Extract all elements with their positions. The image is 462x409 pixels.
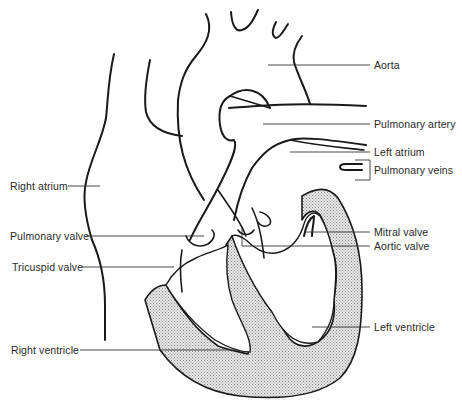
aorta-left-wall	[178, 14, 210, 200]
label-pulmonary-valve: Pulmonary valve	[10, 230, 89, 242]
aortic-branch-1	[231, 10, 258, 30]
label-right-ventricle: Right ventricle	[11, 344, 79, 356]
label-aorta: Aorta	[374, 59, 400, 71]
right-atrium-outline	[84, 54, 114, 340]
superior-vena-cava	[145, 60, 182, 136]
pulmonary-vein-lower	[340, 164, 362, 170]
pulmonary-trunk-left	[190, 96, 235, 240]
pulmonary-vein-upper	[290, 140, 364, 150]
left-atrium-top	[234, 138, 366, 220]
label-left-ventricle: Left ventricle	[374, 321, 435, 333]
label-right-atrium: Right atrium	[10, 180, 68, 192]
aortic-branch-2	[273, 22, 288, 38]
label-aortic-valve: Aortic valve	[374, 240, 429, 252]
heart-diagram: Aorta Pulmonary artery Left atrium Pulmo…	[0, 0, 462, 409]
label-pulmonary-veins: Pulmonary veins	[374, 164, 453, 176]
interatrial-curve	[258, 212, 271, 226]
aorta-right-wall	[293, 36, 310, 104]
aortic-valve-cusps	[238, 230, 254, 235]
label-pulmonary-artery: Pulmonary artery	[374, 118, 456, 130]
label-mitral-valve: Mitral valve	[374, 226, 428, 238]
label-tricuspid-valve: Tricuspid valve	[12, 261, 83, 273]
pulmonary-artery-top	[229, 104, 366, 108]
label-left-atrium: Left atrium	[374, 146, 425, 158]
